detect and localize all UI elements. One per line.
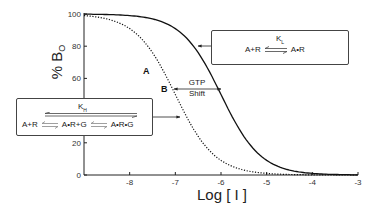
svg-text:60: 60	[72, 74, 81, 83]
x-axis-title: Log [ I ]	[197, 186, 247, 203]
equilibrium-arrows-icon	[89, 121, 109, 129]
svg-text:80: 80	[72, 42, 81, 51]
svg-text:-7: -7	[172, 178, 180, 187]
curve-a-label: A	[143, 66, 150, 76]
svg-text:-5: -5	[263, 178, 271, 187]
svg-text:0: 0	[77, 171, 82, 180]
shift-text: Shift	[183, 89, 211, 99]
svg-text:100: 100	[68, 10, 82, 19]
svg-text:-8: -8	[126, 178, 134, 187]
y-axis-title: % BO	[48, 45, 67, 80]
k-high-label: KH	[78, 102, 87, 113]
low-affinity-scheme-box: KL A+R A•R	[211, 30, 349, 65]
gtp-text: GTP	[183, 78, 211, 88]
svg-text:-3: -3	[354, 178, 362, 187]
low-affinity-equation: A+R A•R	[245, 45, 305, 54]
high-affinity-scheme-box: KH A+R A•R+G A•R•G	[16, 98, 153, 136]
svg-text:20: 20	[72, 139, 81, 148]
equilibrium-arrows-icon	[40, 121, 60, 129]
gtp-shift-label: GTP Shift	[183, 78, 211, 99]
high-affinity-equation: A+R A•R+G A•R•G	[22, 120, 134, 129]
curve-b-label: B	[161, 84, 168, 94]
equilibrium-arrows-icon	[263, 46, 289, 54]
svg-text:-4: -4	[309, 178, 317, 187]
svg-text:% BO: % BO	[48, 45, 67, 80]
k-low-label: KL	[276, 34, 284, 45]
overall-equilibrium-arrows-icon	[43, 112, 139, 118]
